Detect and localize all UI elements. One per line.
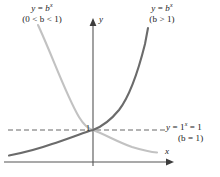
y-axis-arrowhead bbox=[90, 18, 97, 26]
x-axis-arrowhead bbox=[166, 159, 174, 166]
label-decreasing-condition: (0 < b < 1) bbox=[22, 14, 62, 24]
label-increasing-condition: (b > 1) bbox=[149, 14, 174, 24]
x-axis bbox=[4, 159, 174, 166]
curve-decreasing-0-lt-b-lt-1 bbox=[38, 25, 157, 153]
curve-increasing-b-gt-1 bbox=[9, 28, 148, 156]
label-increasing-equation: y = bx bbox=[151, 3, 172, 13]
label-increasing-exponential: y = bx (b > 1) bbox=[125, 3, 199, 25]
label-constant-condition: (b = 1) bbox=[166, 133, 203, 144]
label-decreasing-exponential: y = bx (0 < b < 1) bbox=[3, 3, 81, 25]
y-axis-tick-label-1: 1 bbox=[86, 124, 90, 133]
label-constant-equation: y = 1x = 1 bbox=[166, 122, 202, 132]
exponential-function-graph bbox=[0, 0, 220, 177]
label-constant-function: y = 1x = 1 (b = 1) bbox=[166, 122, 220, 144]
y-axis bbox=[90, 18, 97, 166]
figure-caption bbox=[2, 171, 122, 177]
y-axis-label: y bbox=[99, 14, 103, 24]
x-axis-label: x bbox=[165, 146, 169, 156]
label-decreasing-equation: y = bx bbox=[31, 3, 52, 13]
